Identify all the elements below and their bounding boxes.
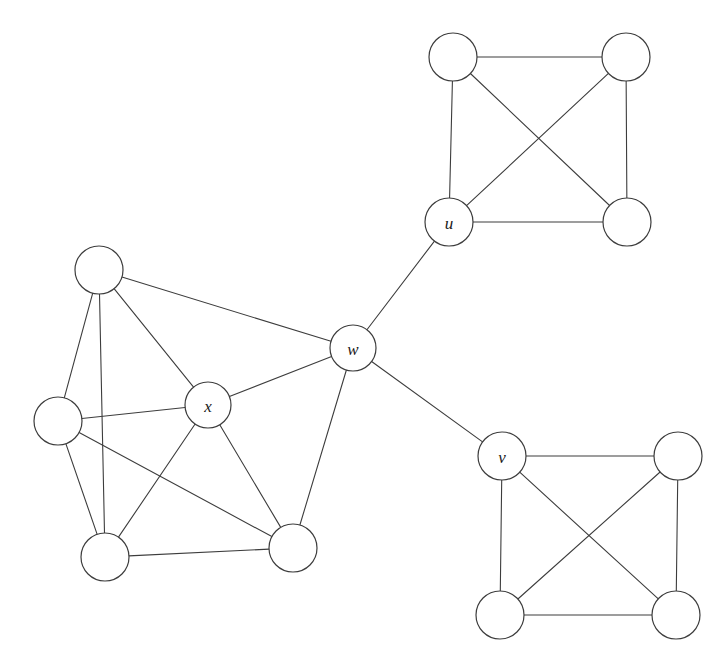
graph-node-t1[interactable] — [429, 33, 477, 81]
graph-edge — [372, 362, 483, 442]
graph-edge — [626, 81, 627, 198]
node-circle[interactable] — [603, 198, 651, 246]
graph-node-b3[interactable] — [652, 591, 700, 639]
graph-edge — [114, 289, 193, 387]
node-circle[interactable] — [602, 33, 650, 81]
graph-node-w[interactable]: w — [330, 325, 376, 371]
node-circle[interactable] — [654, 432, 702, 480]
node-circle[interactable] — [81, 533, 129, 581]
node-label: w — [347, 340, 359, 359]
node-circle[interactable] — [75, 246, 123, 294]
graph-node-p2[interactable] — [34, 397, 82, 445]
graph-edge — [220, 425, 281, 528]
node-circle[interactable] — [34, 397, 82, 445]
graph-edge — [450, 81, 453, 198]
graph-edge — [64, 293, 92, 398]
node-layer: xwuv — [34, 33, 702, 639]
node-circle[interactable] — [429, 33, 477, 81]
graph-edge — [118, 424, 195, 537]
graph-edge — [79, 432, 272, 536]
graph-node-u[interactable]: u — [425, 198, 473, 246]
graph-figure: xwuv — [0, 0, 727, 668]
graph-node-t3[interactable] — [603, 198, 651, 246]
graph-node-p3[interactable] — [81, 533, 129, 581]
graph-node-x[interactable]: x — [185, 382, 231, 428]
graph-canvas: xwuv — [0, 0, 727, 668]
node-circle[interactable] — [476, 591, 524, 639]
node-circle[interactable] — [652, 591, 700, 639]
node-label: x — [203, 397, 212, 416]
graph-node-b1[interactable] — [654, 432, 702, 480]
graph-edge — [100, 294, 105, 533]
graph-node-b2[interactable] — [476, 591, 524, 639]
node-circle[interactable] — [269, 524, 317, 572]
graph-node-t2[interactable] — [602, 33, 650, 81]
graph-edge — [66, 444, 97, 535]
graph-edge — [300, 370, 346, 525]
node-label: v — [498, 448, 506, 467]
graph-node-p4[interactable] — [269, 524, 317, 572]
graph-edge — [470, 74, 609, 206]
graph-edge — [229, 356, 331, 396]
graph-edge — [467, 73, 609, 205]
graph-edge — [518, 472, 660, 599]
graph-edge — [676, 480, 677, 591]
graph-node-v[interactable]: v — [478, 432, 526, 480]
graph-edge — [129, 549, 269, 556]
graph-edge — [500, 480, 501, 591]
graph-edge — [82, 407, 185, 418]
graph-edge — [367, 241, 435, 330]
graph-edge — [122, 277, 331, 341]
node-label: u — [445, 214, 454, 233]
graph-node-p1[interactable] — [75, 246, 123, 294]
